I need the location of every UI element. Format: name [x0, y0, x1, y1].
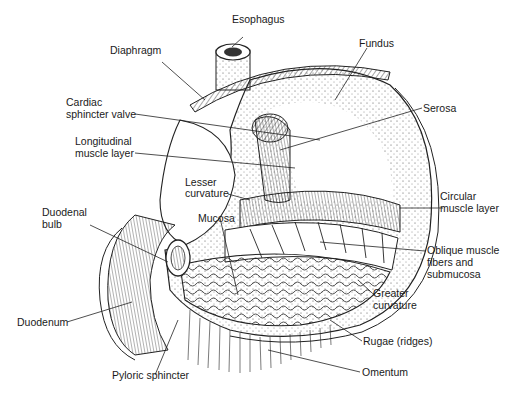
label-fundus: Fundus: [359, 38, 394, 49]
label-circular-line2: muscle layer: [440, 203, 499, 214]
stomach-diagram: Esophagus Diaphragm Fundus Cardiac sphin…: [0, 0, 523, 401]
label-esophagus: Esophagus: [232, 14, 285, 25]
label-mucosa: Mucosa: [198, 213, 235, 224]
label-oblique-line3: submucosa: [427, 269, 481, 280]
label-lesser-curvature-line2: curvature: [185, 188, 229, 199]
label-duodenal-bulb-line2: bulb: [42, 219, 62, 230]
label-cardiac-sphincter-line1: Cardiac: [66, 97, 102, 108]
label-circular-line1: Circular: [440, 191, 476, 202]
label-longitudinal-line1: Longitudinal: [75, 136, 132, 147]
label-longitudinal-line2: muscle layer: [75, 148, 134, 159]
label-greater-curvature-line2: curvature: [373, 300, 417, 311]
label-cardiac-sphincter-line2: sphincter valve: [66, 109, 136, 120]
label-oblique-line2: fibers and: [427, 257, 473, 268]
label-oblique-line1: Oblique muscle: [427, 245, 499, 256]
esophagus-shape: [216, 44, 250, 90]
label-duodenal-bulb-line1: Duodenal: [42, 207, 87, 218]
label-pyloric-sphincter: Pyloric sphincter: [112, 370, 189, 381]
label-greater-curvature-line1: Greater: [373, 288, 409, 299]
label-duodenum: Duodenum: [17, 317, 68, 328]
label-omentum: Omentum: [362, 367, 408, 378]
label-rugae: Rugae (ridges): [363, 336, 432, 347]
label-diaphragm: Diaphragm: [110, 45, 161, 56]
label-serosa: Serosa: [423, 103, 456, 114]
